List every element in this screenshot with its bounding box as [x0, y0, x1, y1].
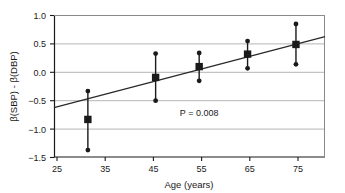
y-axis-title: β(SBP) - β(DBP)	[8, 51, 19, 122]
error-cap-high	[197, 51, 202, 56]
p-value-annotation: P = 0.008	[180, 108, 219, 118]
y-tick-label--1.5: −1.5	[28, 153, 46, 163]
error-cap-low	[294, 62, 299, 67]
y-tick-label--1.0: −1.0	[28, 125, 46, 135]
data-point-marker	[244, 50, 251, 57]
x-tick-label-55: 55	[197, 164, 207, 174]
x-tick-label-25: 25	[52, 164, 62, 174]
x-tick-label-45: 45	[148, 164, 158, 174]
scatter-plot-with-error-bars: 1.0 0.5 0.0 −0.5 −1.0 −1.5 25 35 45 55 6…	[0, 0, 345, 193]
error-cap-high	[245, 39, 250, 44]
error-cap-high	[85, 89, 90, 94]
x-tick-label-65: 65	[245, 164, 255, 174]
error-cap-low	[245, 66, 250, 71]
error-cap-low	[85, 148, 90, 153]
error-cap-high	[153, 51, 158, 56]
x-tick-label-35: 35	[100, 164, 110, 174]
y-tick-label--0.5: −0.5	[28, 96, 46, 106]
y-tick-label-0.5: 0.5	[33, 39, 46, 49]
x-axis-title: Age (years)	[164, 179, 213, 190]
data-point-marker	[84, 116, 91, 123]
data-point-marker	[292, 41, 299, 48]
chart-figure: 1.0 0.5 0.0 −0.5 −1.0 −1.5 25 35 45 55 6…	[0, 0, 345, 193]
data-point-marker	[152, 74, 159, 81]
error-cap-high	[294, 22, 299, 27]
y-tick-label-0.0: 0.0	[33, 68, 46, 78]
error-cap-low	[153, 98, 158, 103]
y-tick-label-1.0: 1.0	[33, 11, 46, 21]
data-point-marker	[195, 63, 202, 70]
x-tick-label-75: 75	[293, 164, 303, 174]
error-cap-low	[197, 78, 202, 83]
